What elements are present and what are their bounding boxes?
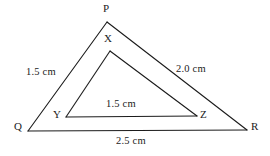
vertex-label-x: X <box>104 33 112 44</box>
triangles-drawing <box>0 0 270 156</box>
vertex-label-z: Z <box>200 109 207 120</box>
side-pr-line <box>107 22 247 130</box>
side-qr-line <box>28 130 247 131</box>
vertex-label-p: P <box>103 3 109 14</box>
vertex-label-y: Y <box>53 109 61 120</box>
measure-label-pq: 1.5 cm <box>26 67 56 78</box>
side-yz-line <box>66 116 197 117</box>
geometry-diagram-canvas: P X Q R Y Z 1.5 cm 2.0 cm 1.5 cm 2.5 cm <box>0 0 270 156</box>
vertex-label-r: R <box>251 121 259 132</box>
side-xy-line <box>66 51 110 117</box>
measure-label-qr: 2.5 cm <box>116 136 146 147</box>
measure-label-yz: 1.5 cm <box>106 99 136 110</box>
measure-label-pr: 2.0 cm <box>176 64 206 75</box>
vertex-label-q: Q <box>14 121 22 132</box>
